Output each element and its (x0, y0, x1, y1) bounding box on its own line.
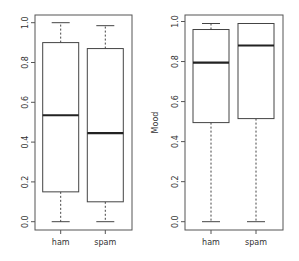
y-axis-label: Mood (151, 112, 160, 134)
iqr-box (238, 24, 274, 119)
y-tick-label: 0.8 (21, 56, 30, 69)
y-tick-label: 0.2 (171, 175, 180, 188)
iqr-box (43, 43, 79, 192)
box-spam (238, 24, 274, 222)
y-tick-label: 0.4 (171, 135, 180, 148)
left-boxplot-panel: 0.00.20.40.60.81.0hamspam (21, 15, 133, 247)
boxplot-figure: 0.00.20.40.60.81.0hamspam 0.00.20.40.60.… (0, 0, 299, 261)
y-tick-label: 0.0 (171, 215, 180, 228)
y-tick-label: 0.0 (21, 215, 30, 228)
box-ham (193, 24, 229, 222)
x-tick-label: spam (94, 238, 116, 247)
y-tick-label: 0.6 (21, 96, 30, 109)
y-tick-label: 0.4 (21, 136, 30, 149)
x-tick-label: ham (202, 238, 220, 247)
y-tick-label: 0.8 (171, 55, 180, 68)
y-tick-label: 0.6 (171, 95, 180, 108)
x-tick-label: ham (52, 238, 70, 247)
right-boxplot-panel: 0.00.20.40.60.81.0Moodhamspam (151, 15, 284, 247)
y-tick-label: 0.2 (21, 176, 30, 189)
y-tick-label: 1.0 (21, 16, 30, 29)
box-spam (87, 26, 123, 222)
box-ham (43, 23, 79, 222)
y-tick-label: 1.0 (171, 15, 180, 28)
iqr-box (193, 30, 229, 123)
x-tick-label: spam (245, 238, 267, 247)
iqr-box (87, 49, 123, 202)
